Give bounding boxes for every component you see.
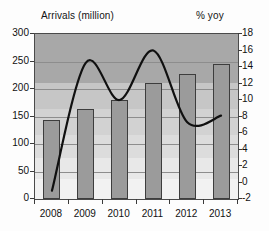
bar-2009 (77, 109, 94, 199)
x-tick-label-2012: 2012 (169, 208, 203, 219)
bar-2008 (43, 120, 60, 199)
gridline (35, 89, 238, 90)
bar-2012 (179, 74, 196, 199)
x-tick-label-2008: 2008 (34, 208, 68, 219)
bar-2013 (213, 64, 230, 199)
x-tick-mark (102, 199, 103, 204)
bar-2010 (111, 100, 128, 199)
x-tick-mark (68, 199, 69, 204)
right-tick-label-8: 8 (242, 110, 268, 121)
right-tick-label-0: 0 (242, 176, 268, 187)
x-tick-mark (203, 199, 204, 204)
left-tick-mark (30, 88, 34, 89)
gridline (35, 144, 238, 145)
left-tick-label-250: 250 (0, 55, 29, 66)
left-tick-label-200: 200 (0, 82, 29, 93)
gridline (35, 172, 238, 173)
right-tick-label--2: -2 (242, 192, 268, 203)
chart-container: Arrivals (million) % yoy 300250200150100… (0, 0, 269, 231)
right-tick-label-6: 6 (242, 126, 268, 137)
right-tick-label-16: 16 (242, 44, 268, 55)
left-tick-mark (30, 33, 34, 34)
left-tick-label-100: 100 (0, 137, 29, 148)
x-tick-label-2013: 2013 (203, 208, 237, 219)
right-axis-title: % yoy (196, 10, 224, 21)
left-tick-label-150: 150 (0, 110, 29, 121)
plot-area (34, 33, 239, 200)
right-tick-label-12: 12 (242, 77, 268, 88)
left-tick-mark (30, 61, 34, 62)
bar-2011 (145, 83, 162, 199)
x-tick-label-2011: 2011 (135, 208, 169, 219)
x-tick-mark (237, 199, 238, 204)
right-tick-label-18: 18 (242, 27, 268, 38)
x-tick-mark (169, 199, 170, 204)
x-tick-label-2009: 2009 (68, 208, 102, 219)
gridline (35, 62, 238, 63)
left-tick-mark (30, 116, 34, 117)
left-axis-title: Arrivals (million) (41, 10, 114, 21)
x-tick-mark (136, 199, 137, 204)
right-tick-label-10: 10 (242, 93, 268, 104)
x-tick-label-2010: 2010 (102, 208, 136, 219)
left-tick-label-300: 300 (0, 27, 29, 38)
left-tick-label-0: 0 (0, 192, 29, 203)
left-tick-mark (30, 171, 34, 172)
left-tick-mark (30, 143, 34, 144)
right-tick-label-4: 4 (242, 143, 268, 154)
gridline (35, 117, 238, 118)
left-tick-label-50: 50 (0, 165, 29, 176)
x-tick-mark (34, 199, 35, 204)
right-tick-label-14: 14 (242, 60, 268, 71)
right-tick-label-2: 2 (242, 159, 268, 170)
